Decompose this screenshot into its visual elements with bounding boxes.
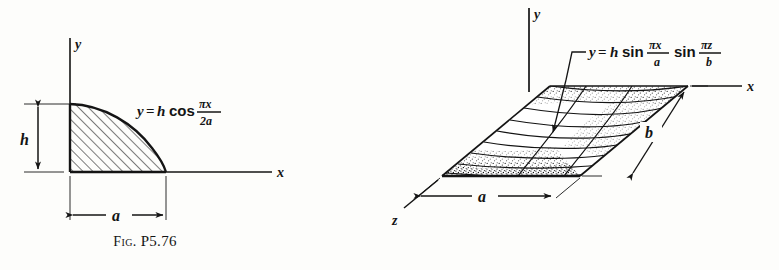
equation-denominator-1-fig2: a xyxy=(654,55,660,69)
x-axis-label-fig1: x xyxy=(276,165,284,180)
b-dimension-label-fig2: b xyxy=(645,124,653,141)
equation-leader-line-fig2 xyxy=(566,52,586,80)
equation-function-fig1: cos xyxy=(169,102,195,119)
figure-p5-77: y xyxy=(390,0,779,270)
a-ext-left-fig2 xyxy=(416,178,440,198)
equation-numerator-2-fig2: πz xyxy=(701,38,713,52)
caption-number-left: P5.76 xyxy=(141,233,177,249)
figure-p5-76: y x h a y = h xyxy=(0,0,390,270)
h-dimension-label: h xyxy=(20,131,29,148)
equation-equals-fig1: = xyxy=(146,103,155,119)
equation-function-1-fig2: sin xyxy=(622,43,644,60)
equation-numerator-1-fig2: πx xyxy=(649,38,662,52)
y-axis-label-fig2: y xyxy=(532,7,541,22)
y-axis-label-fig1: y xyxy=(73,37,82,52)
x-axis-label-fig2: x xyxy=(746,79,754,94)
plate-surface xyxy=(430,80,710,190)
equation-numerator-fig1: πx xyxy=(199,97,212,111)
equation-fig2: y = h sin πx a sin πz b xyxy=(587,38,721,69)
figure-sheet: y x h a y = h xyxy=(0,0,779,270)
z-axis-label-fig2: z xyxy=(391,213,398,228)
equation-function-2-fig2: sin xyxy=(674,43,696,60)
figure-p5-77-drawing: y xyxy=(390,0,779,232)
a-ext-right-fig2 xyxy=(556,178,580,198)
caption-fig-word-left: Fig. xyxy=(113,234,136,249)
figure-caption-p5-76: Fig. P5.76 xyxy=(60,232,230,250)
equation-denominator-2-fig2: b xyxy=(706,55,712,69)
equation-denominator-fig1: 2a xyxy=(199,114,212,128)
equation-lhs-fig1: y xyxy=(135,103,144,119)
equation-coef-fig2: h xyxy=(610,44,618,60)
equation-coef-fig1: h xyxy=(157,103,165,119)
a-dimension-label: a xyxy=(112,207,120,224)
equation-equals-fig2: = xyxy=(598,44,607,60)
figure-p5-76-drawing: y x h a y = h xyxy=(0,0,390,232)
a-dimension-label-fig2: a xyxy=(478,188,486,205)
equation-fig1: y = h cos πx 2a xyxy=(135,97,221,128)
equation-lhs-fig2: y xyxy=(587,44,596,60)
